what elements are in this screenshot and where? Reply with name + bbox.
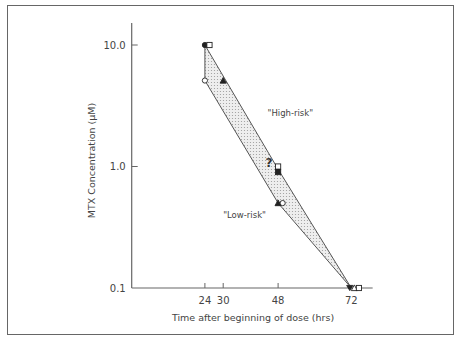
x-tick-label: 24 [199, 295, 212, 306]
y-tick-label: 0.1 [110, 283, 126, 294]
y-axis-title: MTX Concentration (μM) [86, 103, 97, 218]
y-tick-label: 1.0 [110, 161, 126, 172]
x-tick-label: 48 [272, 295, 285, 306]
chart: 10.01.00.124304872Time after beginning o… [0, 0, 459, 343]
filled-square-marker [276, 169, 281, 174]
data-points [202, 42, 361, 290]
y-tick-label: 10.0 [103, 40, 125, 51]
open-square-marker [207, 42, 212, 47]
axes: 10.01.00.124304872Time after beginning o… [86, 23, 373, 323]
open-square-marker [276, 164, 281, 169]
low-risk-label: "Low-risk" [223, 210, 266, 220]
high-risk-label: "High-risk" [267, 108, 313, 118]
x-tick-label: 30 [217, 295, 230, 306]
open-square-marker [356, 285, 361, 290]
x-axis-title: Time after beginning of dose (hrs) [171, 312, 334, 323]
open-circle-marker [280, 200, 285, 205]
question-mark-annotation: ? [265, 156, 272, 170]
open-circle-marker [202, 78, 207, 83]
x-tick-label: 72 [345, 295, 358, 306]
